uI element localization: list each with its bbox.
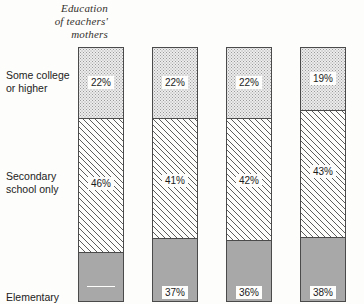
stacked-bar-4: 19% 43% 38%: [300, 47, 346, 302]
bar-3-segment-some-college: 22%: [226, 47, 272, 119]
bar-4-segment-secondary: 43%: [300, 111, 346, 238]
bar-4-value-elementary: 38%: [310, 286, 336, 299]
bar-2-segment-elementary: 37%: [152, 239, 198, 302]
bar-3-value-secondary: 42%: [236, 174, 262, 187]
bar-3-value-some-college: 22%: [236, 76, 262, 89]
stacked-bar-3: 22% 42% 36%: [226, 47, 272, 302]
bar-2-value-elementary: 37%: [162, 286, 188, 299]
bar-1-value-elementary: [87, 286, 115, 287]
bar-2-value-some-college: 22%: [162, 76, 188, 89]
bar-1-segment-elementary: [78, 253, 124, 302]
bar-3-segment-elementary: 36%: [226, 241, 272, 302]
bar-1-value-secondary: 46%: [88, 177, 114, 190]
bar-1-segment-some-college: 22%: [78, 47, 124, 119]
stacked-bar-2: 22% 41% 37%: [152, 47, 198, 302]
bar-4-value-secondary: 43%: [310, 165, 336, 178]
bar-2-segment-secondary: 41%: [152, 119, 198, 239]
bar-1-value-some-college: 22%: [88, 76, 114, 89]
bar-4-segment-elementary: 38%: [300, 238, 346, 302]
bar-2-value-secondary: 41%: [162, 174, 188, 187]
bar-3-value-elementary: 36%: [236, 286, 262, 299]
bar-4-value-some-college: 19%: [310, 72, 336, 85]
stacked-bar-1: 22% 46%: [78, 47, 124, 302]
bar-3-segment-secondary: 42%: [226, 119, 272, 241]
bar-2-segment-some-college: 22%: [152, 47, 198, 119]
bar-4-segment-some-college: 19%: [300, 47, 346, 111]
bar-1-segment-secondary: 46%: [78, 119, 124, 253]
